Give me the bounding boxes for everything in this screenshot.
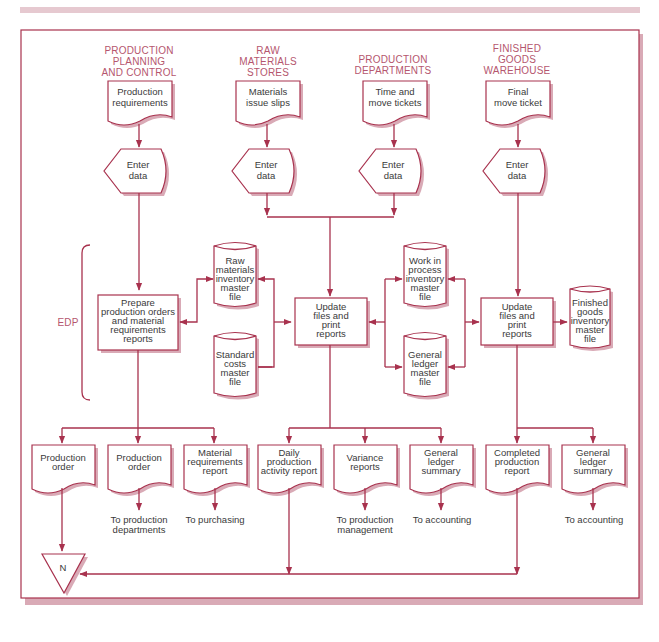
svg-text:FINISHED: FINISHED xyxy=(493,43,541,54)
dest-to-production-management: To production management xyxy=(336,514,393,535)
svg-text:move tickets: move tickets xyxy=(369,97,422,108)
svg-text:Enter: Enter xyxy=(506,159,529,170)
process-update-files-1: Update files and print reports xyxy=(295,298,370,348)
svg-text:management: management xyxy=(337,524,393,535)
dest-to-accounting-1: To accounting xyxy=(413,514,472,525)
flowchart-canvas: PRODUCTION PLANNING AND CONTROL RAW MATE… xyxy=(0,0,659,642)
svg-text:Final: Final xyxy=(508,86,529,97)
edp-label: EDP xyxy=(57,317,78,328)
svg-text:Enter: Enter xyxy=(127,159,150,170)
header-production-departments: PRODUCTION DEPARTMENTS xyxy=(355,54,432,76)
svg-text:reports: reports xyxy=(350,461,380,472)
svg-text:AND CONTROL: AND CONTROL xyxy=(102,67,177,78)
dest-to-accounting-2: To accounting xyxy=(565,514,624,525)
svg-text:file: file xyxy=(229,291,241,302)
file-finished-goods-inventory: Finished goods inventory master file xyxy=(570,286,613,351)
svg-text:Production: Production xyxy=(117,86,162,97)
svg-text:N: N xyxy=(60,562,67,573)
svg-text:reports: reports xyxy=(316,328,346,339)
svg-text:PRODUCTION: PRODUCTION xyxy=(358,54,427,65)
svg-text:file: file xyxy=(419,291,431,302)
file-raw-materials-inventory: Raw materials inventory master file xyxy=(214,243,259,310)
file-general-ledger: General ledger master file xyxy=(404,333,449,400)
file-standard-costs: Standard costs master file xyxy=(214,333,259,400)
svg-text:Enter: Enter xyxy=(255,159,278,170)
svg-text:departments: departments xyxy=(113,524,166,535)
svg-text:reports: reports xyxy=(502,328,532,339)
svg-text:report: report xyxy=(203,465,228,476)
svg-text:Time and: Time and xyxy=(375,86,414,97)
svg-text:data: data xyxy=(384,170,403,181)
svg-text:order: order xyxy=(52,461,74,472)
dest-to-purchasing: To purchasing xyxy=(185,514,244,525)
svg-text:file: file xyxy=(229,376,241,387)
svg-text:file: file xyxy=(584,333,596,344)
file-work-in-process-inventory: Work in process inventory master file xyxy=(404,243,449,310)
svg-text:Enter: Enter xyxy=(382,159,405,170)
svg-text:file: file xyxy=(419,376,431,387)
svg-text:activity report: activity report xyxy=(261,465,318,476)
svg-text:summary: summary xyxy=(573,465,612,476)
svg-text:summary: summary xyxy=(421,465,460,476)
svg-text:WAREHOUSE: WAREHOUSE xyxy=(484,65,551,76)
svg-text:Materials: Materials xyxy=(249,86,288,97)
svg-text:MATERIALS: MATERIALS xyxy=(239,56,297,67)
svg-text:data: data xyxy=(508,170,527,181)
process-prepare-production-orders: Prepare production orders and material r… xyxy=(98,295,181,353)
dest-to-production-departments: To production departments xyxy=(110,514,167,535)
svg-text:GOODS: GOODS xyxy=(498,54,536,65)
svg-text:issue slips: issue slips xyxy=(246,97,290,108)
svg-text:data: data xyxy=(257,170,276,181)
svg-text:DEPARTMENTS: DEPARTMENTS xyxy=(355,65,432,76)
svg-text:PRODUCTION: PRODUCTION xyxy=(104,45,173,56)
svg-text:RAW: RAW xyxy=(256,45,280,56)
svg-text:STORES: STORES xyxy=(247,67,289,78)
svg-text:requirements: requirements xyxy=(112,97,168,108)
svg-text:move ticket: move ticket xyxy=(494,97,542,108)
svg-text:order: order xyxy=(128,461,150,472)
process-update-files-2: Update files and print reports xyxy=(481,298,556,348)
svg-text:PLANNING: PLANNING xyxy=(113,56,166,67)
svg-text:report: report xyxy=(505,465,530,476)
svg-text:data: data xyxy=(129,170,148,181)
svg-text:reports: reports xyxy=(123,333,153,344)
